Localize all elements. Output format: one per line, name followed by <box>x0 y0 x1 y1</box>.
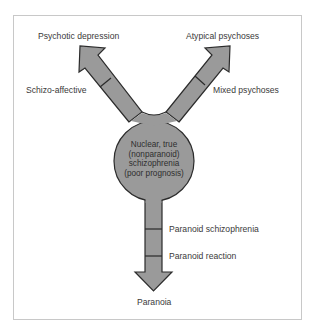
label-atypical-psychoses: Atypical psychoses <box>186 31 259 41</box>
label-schizo-affective: Schizo-affective <box>26 85 87 95</box>
label-mixed-psychoses: Mixed psychoses <box>213 85 279 95</box>
upper-right-arrow <box>166 46 230 122</box>
upper-left-arrow <box>79 46 142 122</box>
center-label-line: Nuclear, true <box>114 140 194 150</box>
label-paranoid-schizophrenia: Paranoid schizophrenia <box>169 224 259 234</box>
label-paranoia: Paranoia <box>137 297 171 307</box>
label-paranoid-reaction: Paranoid reaction <box>169 251 236 261</box>
center-label-line: schizophrenia <box>114 159 194 169</box>
center-label-line: (nonparanoid) <box>114 150 194 160</box>
center-label-line: (poor prognosis) <box>114 169 194 179</box>
center-label: Nuclear, true (nonparanoid) schizophreni… <box>114 140 194 178</box>
label-psychotic-depression: Psychotic depression <box>38 31 119 41</box>
down-arrow <box>135 190 172 291</box>
